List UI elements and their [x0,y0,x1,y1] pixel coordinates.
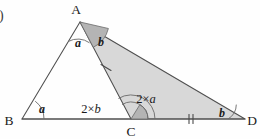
angle-label-b-at-D: b [219,106,225,120]
angle-label-b-at-A: b [98,35,104,49]
angle-label-a-at-A: a [75,36,81,50]
angle-label-2a-at-C: 2×a [136,92,156,106]
vertex-label-D: D [247,113,257,128]
angle-2b-prefix: 2× [81,102,94,116]
geometry-figure: ) A B C D a b a [0,0,260,139]
geometry-canvas: ) A B C D a b a [0,0,260,139]
vertex-label-C: C [126,124,135,139]
angle-2a-prefix: 2× [136,92,149,106]
vertex-label-B: B [4,113,13,128]
list-marker: ) [0,8,4,24]
angle-2b-variable: b [95,102,101,116]
angle-label-2b-at-C: 2×b [81,102,101,116]
angle-2a-variable: a [150,92,156,106]
vertex-label-A: A [71,2,81,17]
angle-label-a-at-B: a [39,102,45,116]
